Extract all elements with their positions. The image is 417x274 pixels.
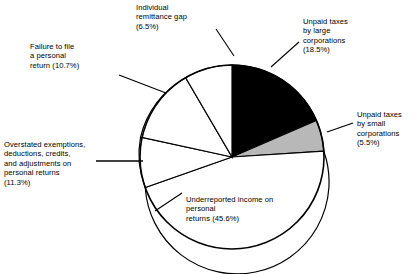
pie-label-unpaid-taxes-small-corporations: Unpaid taxes by small corporations (5.5%… xyxy=(357,110,417,148)
pie-label-overstated-exemptions: Overstated exemptions, deductions, credi… xyxy=(4,140,104,187)
pie-label-underreported-income: Underreported income on personal returns… xyxy=(186,195,298,223)
pie-chart-screenshot: Individual remittance gap (6.5%) Unpaid … xyxy=(0,0,417,274)
leader-line-unpaid-taxes-small-corporations xyxy=(327,123,353,132)
pie-label-unpaid-taxes-large-corporations: Unpaid taxes by large corporations (18.5… xyxy=(303,17,408,55)
pie-label-individual-remittance-gap: Individual remittance gap (6.5%) xyxy=(136,3,222,31)
leader-line-failure-to-file xyxy=(119,75,166,93)
pie-label-failure-to-file: Failure to file a personal return (10.7%… xyxy=(30,42,116,70)
leader-line-individual-remittance-gap xyxy=(216,29,234,56)
leader-line-unpaid-taxes-large-corporations xyxy=(271,42,299,67)
